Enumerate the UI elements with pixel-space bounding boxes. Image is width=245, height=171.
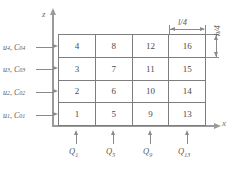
q5-label: Q5 xyxy=(106,146,115,158)
leader-arrow-row3-icon xyxy=(53,66,58,70)
x-axis-arrow-icon xyxy=(214,123,221,129)
grid-cell: 11 xyxy=(133,58,170,81)
inlet-label-row4: u4, C04 xyxy=(3,43,25,52)
inlet-label-row1: u1, C01 xyxy=(3,111,25,120)
grid-cell: 7 xyxy=(96,58,133,81)
q1-label: Q1 xyxy=(69,146,78,158)
grid-cell: 10 xyxy=(133,81,170,104)
q13-arrow-head-icon xyxy=(185,130,189,135)
grid-cell: 12 xyxy=(133,35,170,58)
inlet-label-row2: u2, C02 xyxy=(3,88,25,97)
grid-cell: 14 xyxy=(169,81,206,104)
grid-cell: 9 xyxy=(133,103,170,126)
q9-sub: 9 xyxy=(149,152,152,158)
dim-h4-arrow-down-icon xyxy=(214,52,218,57)
grid-cell: 13 xyxy=(169,103,206,126)
grid-cell: 8 xyxy=(96,35,133,58)
q5-arrow-head-icon xyxy=(111,130,115,135)
inlet-label-row3-c-sub: 03 xyxy=(19,67,25,73)
dim-h4-tick-bottom xyxy=(206,57,219,58)
mesh-grid: 4 8 12 16 3 7 11 15 2 6 10 14 1 5 9 13 xyxy=(58,34,206,126)
leader-line-row4 xyxy=(36,47,53,48)
q9-label: Q9 xyxy=(143,146,152,158)
grid-cell: 4 xyxy=(59,35,96,58)
inlet-label-row3: u3, C03 xyxy=(3,65,25,74)
leader-line-row3 xyxy=(36,69,53,70)
q13-sub: 13 xyxy=(184,152,190,158)
x-axis-label: x xyxy=(222,118,226,128)
leader-arrow-row4-icon xyxy=(53,44,58,48)
leader-arrow-row1-icon xyxy=(53,112,58,116)
leader-line-row2 xyxy=(36,92,53,93)
grid-cell: 6 xyxy=(96,81,133,104)
dim-l4-line xyxy=(170,29,204,30)
q1-arrow-head-icon xyxy=(74,130,78,135)
dim-l4-tick-right xyxy=(205,25,206,34)
grid-cell: 16 xyxy=(169,35,206,58)
figure-canvas: z x 4 8 12 16 3 7 11 15 2 6 10 14 1 5 9 … xyxy=(0,0,245,171)
inlet-label-row2-c-sub: 02 xyxy=(19,90,25,96)
z-axis-line xyxy=(52,14,54,127)
leader-arrow-row2-icon xyxy=(53,89,58,93)
dim-l4-label: l/4 xyxy=(178,17,187,27)
inlet-label-row4-c-sub: 04 xyxy=(19,45,25,51)
dim-l4-arrow-right-icon xyxy=(200,27,205,31)
q9-arrow-head-icon xyxy=(148,130,152,135)
z-axis-arrow-icon xyxy=(50,8,56,15)
q1-sub: 1 xyxy=(75,152,78,158)
leader-line-row1 xyxy=(36,115,53,116)
grid-cell: 1 xyxy=(59,103,96,126)
grid-cell: 2 xyxy=(59,81,96,104)
grid-cell: 15 xyxy=(169,58,206,81)
dim-h4-label: h/4 xyxy=(212,25,222,36)
dim-l4-arrow-left-icon xyxy=(170,27,175,31)
z-axis-label: z xyxy=(42,9,46,19)
q5-sub: 5 xyxy=(112,152,115,158)
q13-label: Q13 xyxy=(178,146,190,158)
grid-cell: 3 xyxy=(59,58,96,81)
inlet-label-row1-c-sub: 01 xyxy=(19,113,25,119)
grid-cell: 5 xyxy=(96,103,133,126)
